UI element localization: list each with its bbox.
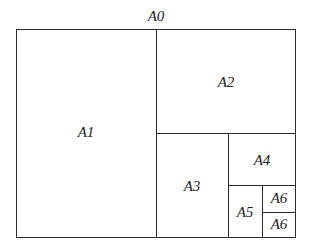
label-a1: A1 — [78, 124, 95, 141]
label-a6-top: A6 — [271, 190, 288, 207]
label-a0: A0 — [148, 8, 165, 25]
label-a5: A5 — [237, 204, 254, 221]
label-a2: A2 — [218, 74, 235, 91]
label-a3: A3 — [184, 178, 201, 195]
label-a4: A4 — [254, 152, 271, 169]
label-a6-bottom: A6 — [271, 216, 288, 233]
